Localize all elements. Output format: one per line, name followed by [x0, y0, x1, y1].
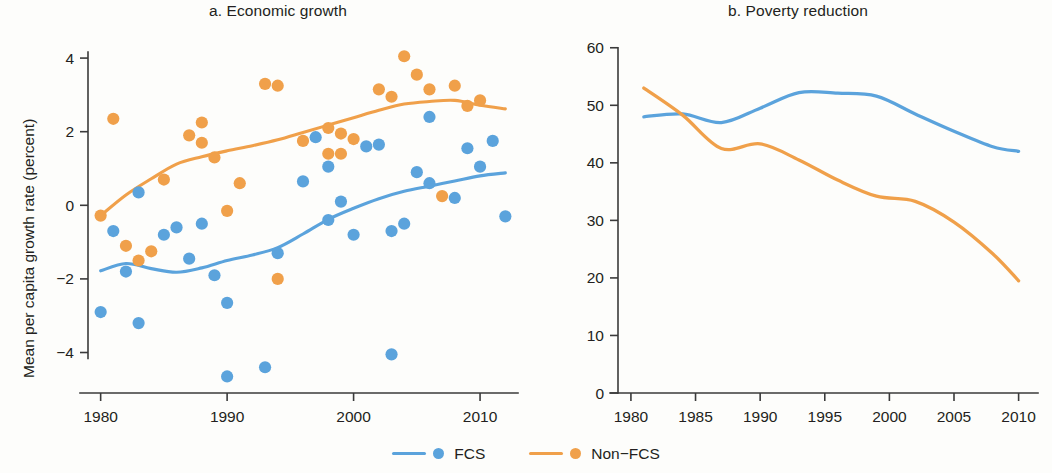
panel-a-point-nonfcs: [196, 137, 208, 149]
panel-a-x-tick-label: 2010: [463, 408, 498, 425]
panel-a-point-nonfcs: [398, 50, 410, 62]
panel-a-point-fcs: [120, 265, 132, 277]
panel-a-plot: −4−20241980199020002010: [0, 0, 526, 430]
panel-a-point-fcs: [499, 210, 511, 222]
panel-b-axes: [610, 48, 1038, 401]
legend-label-fcs: FCS: [454, 445, 485, 463]
figure-container: a. Economic growth −4−202419801990200020…: [0, 0, 1052, 473]
panel-a-point-fcs: [449, 192, 461, 204]
panel-a-point-nonfcs: [335, 148, 347, 160]
panel-a-point-nonfcs: [120, 240, 132, 252]
panel-b-line-fcs: [644, 92, 1019, 152]
panel-a-point-nonfcs: [272, 80, 284, 92]
panel-a-point-nonfcs: [474, 94, 486, 106]
panel-a-point-nonfcs: [259, 78, 271, 90]
panel-a-point-nonfcs: [196, 116, 208, 128]
panel-a-point-nonfcs: [234, 177, 246, 189]
panel-a-point-nonfcs: [145, 245, 157, 257]
panel-a-point-fcs: [461, 142, 473, 154]
legend-label-non-fcs: Non−FCS: [591, 445, 660, 463]
legend-line-swatch-non-fcs: [529, 452, 563, 455]
panel-a-point-fcs: [347, 229, 359, 241]
panel-a-point-nonfcs: [461, 100, 473, 112]
panel-a-tick-labels: −4−20241980199020002010: [56, 50, 497, 425]
panel-a-y-tick-label: 4: [65, 50, 74, 67]
panel-a-y-tick-label: −2: [56, 270, 74, 287]
panel-a-point-nonfcs: [132, 254, 144, 266]
legend-item-fcs[interactable]: FCS: [392, 445, 485, 463]
panel-a-y-tick-label: 0: [65, 197, 74, 214]
panel-a-point-fcs: [322, 214, 334, 226]
legend-dot-swatch-non-fcs: [570, 448, 581, 459]
panel-a-point-fcs: [385, 348, 397, 360]
panel-a-point-fcs: [335, 196, 347, 208]
legend-item-non-fcs[interactable]: Non−FCS: [529, 445, 660, 463]
panel-a-point-nonfcs: [208, 151, 220, 163]
panel-a-y-tick-label: 2: [65, 123, 74, 140]
panel-b-y-tick-label: 30: [587, 212, 605, 229]
panel-a-point-nonfcs: [322, 148, 334, 160]
panel-a-point-fcs: [487, 135, 499, 147]
panel-a-point-fcs: [259, 361, 271, 373]
panel-a-x-tick-label: 1990: [210, 408, 245, 425]
panel-a-point-fcs: [373, 138, 385, 150]
panel-a-point-nonfcs: [347, 133, 359, 145]
panel-a-point-fcs: [385, 225, 397, 237]
panel-b-y-tick-label: 40: [587, 154, 605, 171]
panel-b-x-tick-label: 1980: [614, 408, 649, 425]
panel-b-x-tick-label: 2010: [1001, 408, 1036, 425]
panel-a-point-fcs: [221, 370, 233, 382]
panel-b-x-tick-label: 2000: [872, 408, 907, 425]
panel-a-point-nonfcs: [158, 173, 170, 185]
panel-a-point-fcs: [272, 247, 284, 259]
chart-legend: FCS Non−FCS: [0, 434, 1052, 473]
panel-b-y-tick-label: 10: [587, 327, 605, 344]
panel-a-point-fcs: [196, 218, 208, 230]
panel-b-y-tick-label: 60: [587, 39, 605, 56]
panel-b-plot: 0102030405060198019851990199520002005201…: [526, 0, 1052, 430]
panel-a-point-fcs: [474, 161, 486, 173]
panel-a-title: a. Economic growth: [0, 2, 526, 20]
panel-a-point-fcs: [423, 177, 435, 189]
panel-a-point-fcs: [170, 221, 182, 233]
panel-a-point-fcs: [95, 306, 107, 318]
panel-a-point-nonfcs: [411, 69, 423, 81]
panel-a-point-fcs: [398, 218, 410, 230]
panel-a-point-fcs: [158, 229, 170, 241]
panel-a-point-fcs: [132, 317, 144, 329]
panel-a-point-fcs: [360, 140, 372, 152]
panel-a-y-tick-label: −4: [56, 344, 74, 361]
panel-a-point-nonfcs: [95, 210, 107, 222]
panel-a-point-nonfcs: [449, 80, 461, 92]
legend-line-swatch-fcs: [392, 452, 426, 455]
panel-b-x-tick-label: 2005: [937, 408, 971, 425]
panel-a-point-fcs: [132, 186, 144, 198]
panel-poverty-reduction: b. Poverty reduction 0102030405060198019…: [526, 0, 1052, 430]
panel-a-point-nonfcs: [322, 122, 334, 134]
panel-a-point-fcs: [297, 175, 309, 187]
panel-a-axes: [80, 52, 518, 401]
panel-b-x-tick-label: 1985: [678, 408, 712, 425]
panel-a-point-nonfcs: [272, 273, 284, 285]
panel-a-point-fcs: [208, 269, 220, 281]
panel-a-point-nonfcs: [385, 91, 397, 103]
panel-a-point-nonfcs: [335, 127, 347, 139]
panel-a-point-nonfcs: [183, 129, 195, 141]
panel-a-point-nonfcs: [373, 83, 385, 95]
panel-b-x-tick-label: 1990: [743, 408, 778, 425]
panel-a-point-fcs: [411, 166, 423, 178]
panel-b-x-tick-label: 1995: [808, 408, 842, 425]
panel-b-y-tick-label: 50: [587, 97, 605, 114]
panel-b-y-tick-label: 0: [595, 385, 604, 402]
panel-a-point-nonfcs: [107, 113, 119, 125]
panel-a-trend-fcs: [101, 173, 506, 272]
panel-b-y-tick-label: 20: [587, 269, 605, 286]
panel-a-point-nonfcs: [436, 190, 448, 202]
panel-economic-growth: a. Economic growth −4−202419801990200020…: [0, 0, 526, 430]
panel-b-series-lines: [644, 88, 1019, 281]
panel-a-point-nonfcs: [297, 135, 309, 147]
panel-b-title: b. Poverty reduction: [526, 2, 1052, 20]
panel-a-point-fcs: [183, 253, 195, 265]
panel-a-point-fcs: [322, 161, 334, 173]
panel-a-point-fcs: [423, 111, 435, 123]
